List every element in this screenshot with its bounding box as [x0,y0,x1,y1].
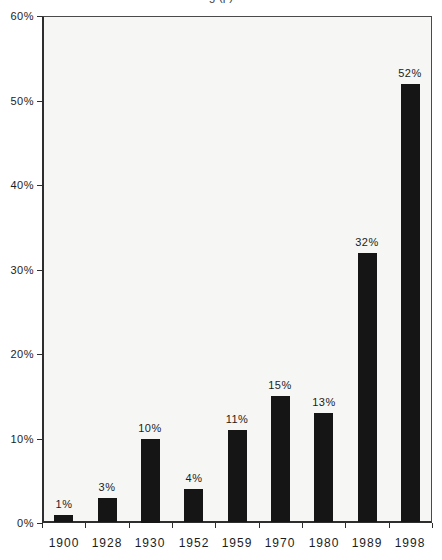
y-tick-label: 30% [4,264,34,276]
x-tick [432,523,433,528]
bar [314,413,333,522]
y-tick [37,185,42,186]
x-tick [172,523,173,528]
y-tick [37,439,42,440]
bar [141,439,160,523]
bar-value-label: 4% [169,472,219,485]
y-tick-label: 60% [4,10,34,22]
bar-value-label: 3% [82,481,132,494]
x-tick [345,523,346,528]
y-tick-label: 50% [4,95,34,107]
chart-title-fragment: g (p) [209,0,234,3]
y-tick [37,354,42,355]
x-tick-label: 1998 [380,537,440,550]
y-tick-label: 20% [4,348,34,360]
bar-value-label: 10% [125,422,175,435]
bar-value-label: 52% [385,67,435,80]
bar [228,430,247,522]
bar [271,396,290,522]
y-tick-label: 0% [4,517,34,529]
bar [98,498,117,522]
bar-chart: g (p) 0%10%20%30%40%50%60% 1900192819301… [0,0,442,560]
x-tick [85,523,86,528]
y-tick [37,101,42,102]
bar-value-label: 11% [212,413,262,426]
x-tick [215,523,216,528]
x-tick [129,523,130,528]
x-tick [42,523,43,528]
x-tick [302,523,303,528]
y-tick [37,270,42,271]
chart-title-clipped-region: g (p) [0,0,442,5]
y-tick-label: 40% [4,179,34,191]
bar [54,515,73,522]
x-tick [259,523,260,528]
bar [358,253,377,522]
bar [401,84,420,522]
y-tick-label: 10% [4,433,34,445]
y-tick [37,16,42,17]
bar-value-label: 15% [255,379,305,392]
bar-value-label: 1% [39,498,89,511]
bar-value-label: 32% [342,236,392,249]
bar-value-label: 13% [299,396,349,409]
x-tick [389,523,390,528]
bar [184,489,203,522]
